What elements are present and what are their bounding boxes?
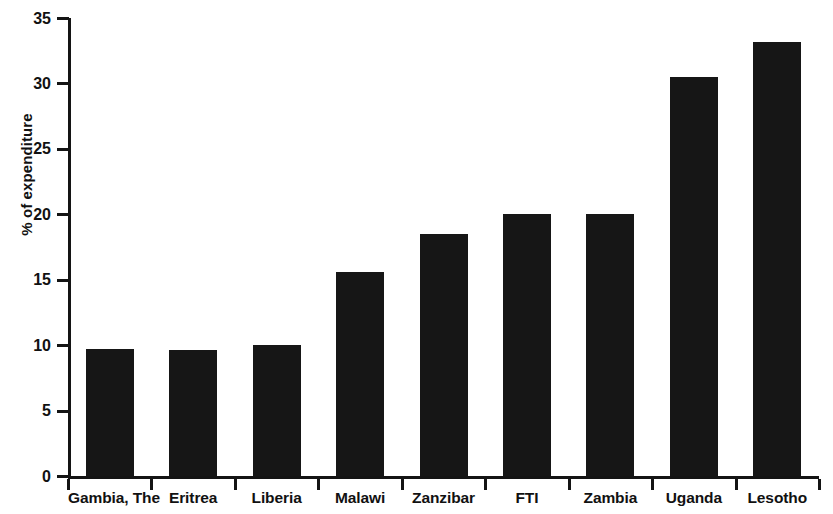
y-axis-title: % of expenditure: [18, 85, 35, 265]
x-axis-label: Lesotho: [736, 489, 819, 507]
x-axis-label: Liberia: [235, 489, 318, 507]
y-tick-label: 5: [42, 402, 51, 420]
x-axis-label: Malawi: [318, 489, 401, 507]
y-tick-label: 35: [33, 10, 51, 28]
bar: [253, 345, 301, 476]
bars-layer: [68, 18, 819, 476]
x-axis-label: Gambia, The: [68, 489, 151, 507]
bar: [503, 214, 551, 476]
bar: [86, 349, 134, 476]
y-tick-label: 0: [42, 468, 51, 486]
x-axis-labels: Gambia, TheEritreaLiberiaMalawiZanzibarF…: [68, 489, 819, 514]
bar: [586, 214, 634, 476]
y-tick-label: 30: [33, 75, 51, 93]
x-axis-line: [68, 476, 819, 479]
y-tick-label: 10: [33, 337, 51, 355]
bar: [336, 272, 384, 476]
bar: [169, 350, 217, 476]
x-axis-label: Zambia: [569, 489, 652, 507]
bar: [753, 42, 801, 476]
bar: [670, 77, 718, 476]
x-axis-label: Eritrea: [151, 489, 234, 507]
x-axis-label: FTI: [485, 489, 568, 507]
x-axis-label: Zanzibar: [402, 489, 485, 507]
y-tick-label: 15: [33, 271, 51, 289]
y-tick-label: 25: [33, 140, 51, 158]
bar: [420, 234, 468, 476]
x-axis-label: Uganda: [652, 489, 735, 507]
bar-chart: % of expenditure 35302520151050 Gambia, …: [0, 0, 833, 514]
y-tick-label: 20: [33, 206, 51, 224]
